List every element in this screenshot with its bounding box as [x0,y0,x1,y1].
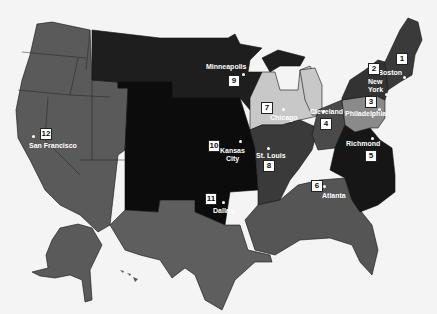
city-label-dallas: Dallas [213,207,234,215]
city-label-atlanta: Atlanta [322,192,346,200]
district-badge-1[interactable]: 1 [396,53,408,65]
city-label-minneapolis: Minneapolis [206,63,246,71]
city-label-san-francisco: San Francisco [29,142,77,150]
city-label-chicago: Chicago [270,114,298,122]
city-dot-chicago [282,108,285,111]
city-label-st-louis: St. Louis [256,152,286,160]
alaska [32,224,102,302]
city-dot-richmond [371,137,374,140]
city-dot-minneapolis [242,73,245,76]
city-label-cleveland: Cleveland [310,108,343,116]
district-badge-4[interactable]: 4 [320,118,332,130]
district-badge-9[interactable]: 9 [228,75,240,87]
hawaii [120,270,138,282]
city-dot-san-francisco [32,135,35,138]
city-dot-philadelphia [378,108,381,111]
city-dot-atlanta [323,185,326,188]
district-badge-6[interactable]: 6 [311,180,323,192]
city-dot-boston [403,76,406,79]
city-label-kansas-city-2: City [226,155,239,163]
city-label-boston: Boston [378,69,402,77]
district-badge-5[interactable]: 5 [365,150,377,162]
district-badge-7[interactable]: 7 [261,102,273,114]
district-badge-8[interactable]: 8 [263,160,275,172]
district-badge-11[interactable]: 11 [205,193,217,205]
district-badge-12[interactable]: 12 [40,128,52,140]
city-dot-cleveland [322,110,325,113]
district-badge-2[interactable]: 2 [368,63,380,75]
city-label-richmond: Richmond [346,140,380,148]
district-badge-10[interactable]: 10 [208,140,220,152]
district-badge-3[interactable]: 3 [365,96,377,108]
city-dot-new-york [385,93,388,96]
city-dot-kansas-city [239,140,242,143]
city-label-new-york-1: New [368,78,382,86]
city-label-kansas-city-1: Kansas [220,147,245,155]
city-dot-dallas [222,201,225,204]
city-label-new-york-2: York [368,86,383,94]
city-label-philadelphia: Philadelphia [345,110,386,118]
city-dot-st-louis [267,147,270,150]
